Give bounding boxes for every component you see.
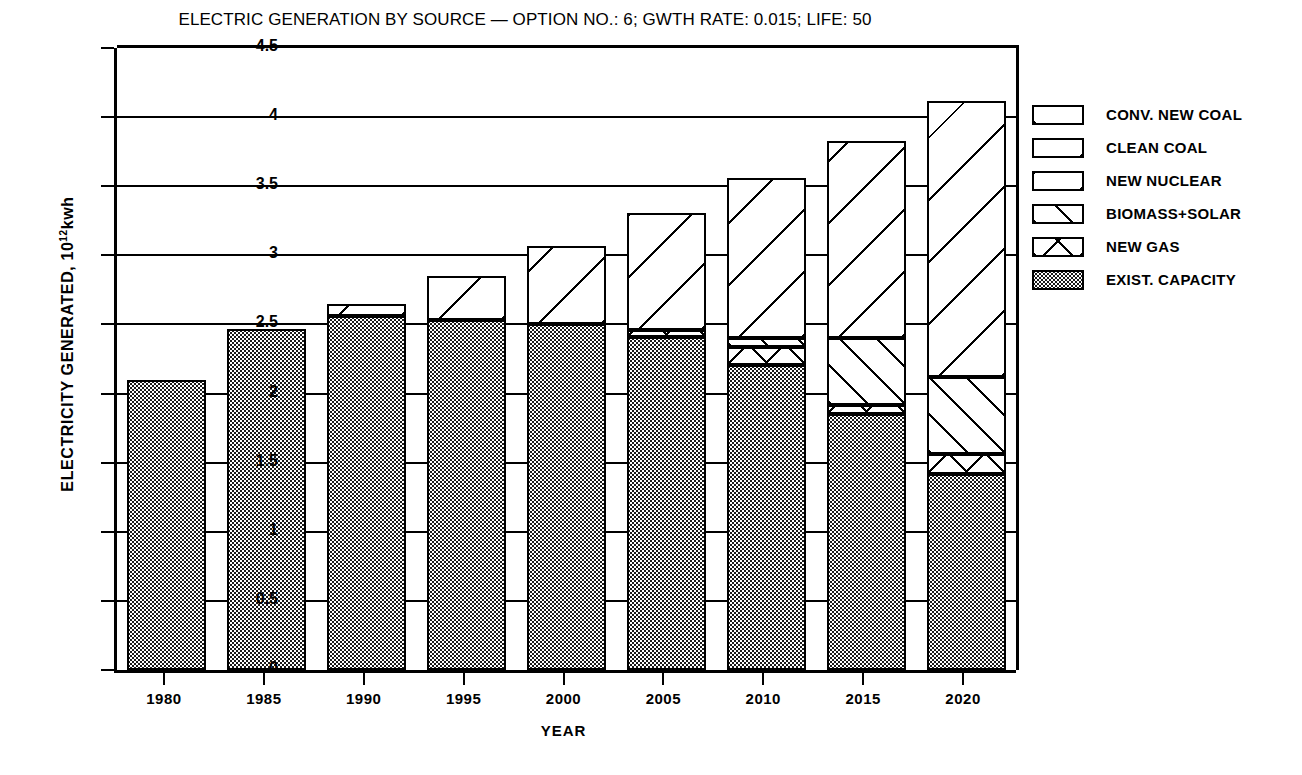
x-tick-mark <box>263 673 265 685</box>
bar-segment-new-nuclear[interactable] <box>827 141 906 339</box>
x-tick-label: 2010 <box>718 690 808 707</box>
legend-label: NEW NUCLEAR <box>1106 172 1222 189</box>
bar-2020[interactable] <box>927 101 1006 670</box>
bar-segment-new-nuclear[interactable] <box>327 304 406 316</box>
x-tick-mark <box>463 673 465 685</box>
y-tick-label: 2 <box>218 383 278 401</box>
x-tick-mark <box>662 673 664 685</box>
y-tick-label: 4.5 <box>218 37 278 55</box>
y-tick-label: 3 <box>218 244 278 262</box>
plot-frame-right <box>1016 45 1019 670</box>
bar-segment-new-gas[interactable] <box>627 330 706 337</box>
legend-swatch-icon <box>1032 138 1084 158</box>
bar-segment-biomass-solar[interactable] <box>727 338 806 346</box>
y-tick-label: 0.5 <box>218 590 278 608</box>
y-axis-label-exponent: 12 <box>58 229 69 241</box>
chart-page: ELECTRIC GENERATION BY SOURCE — OPTION N… <box>0 0 1302 775</box>
x-tick-label: 2020 <box>918 690 1008 707</box>
bar-segment-exist-capacity[interactable] <box>427 320 506 670</box>
bar-segment-new-nuclear[interactable] <box>427 276 506 320</box>
bar-segment-exist-capacity[interactable] <box>327 316 406 670</box>
legend-item-conv-new-coal[interactable]: CONV. NEW COAL <box>1032 98 1294 131</box>
x-tick-mark <box>762 673 764 685</box>
x-tick-label: 1985 <box>219 690 309 707</box>
y-tick-mark <box>101 185 114 187</box>
y-tick-label: 1.5 <box>218 452 278 470</box>
y-axis-label: ELECTRICITY GENERATED, 1012kwh <box>54 64 82 624</box>
bar-segment-exist-capacity[interactable] <box>527 324 606 670</box>
bar-segment-new-nuclear[interactable] <box>927 101 1006 377</box>
legend-swatch-icon <box>1032 270 1084 290</box>
legend-item-exist-capacity[interactable]: EXIST. CAPACITY <box>1032 263 1294 296</box>
bar-segment-new-gas[interactable] <box>727 347 806 365</box>
x-tick-mark <box>563 673 565 685</box>
y-tick-label: 1 <box>218 521 278 539</box>
x-tick-mark <box>962 673 964 685</box>
x-axis-label: YEAR <box>114 722 1013 739</box>
y-tick-mark <box>101 323 114 325</box>
x-tick-label: 1990 <box>319 690 409 707</box>
bar-segment-biomass-solar[interactable] <box>927 377 1006 454</box>
bar-segment-new-gas[interactable] <box>827 405 906 415</box>
y-axis-label-text: ELECTRICITY GENERATED, 10 <box>60 242 77 492</box>
legend: CONV. NEW COALCLEAN COALNEW NUCLEARBIOMA… <box>1032 98 1294 296</box>
bar-segment-new-nuclear[interactable] <box>727 178 806 338</box>
bar-segment-exist-capacity[interactable] <box>627 337 706 670</box>
y-tick-mark <box>101 531 114 533</box>
y-tick-label: 0 <box>218 659 278 677</box>
legend-item-new-nuclear[interactable]: NEW NUCLEAR <box>1032 164 1294 197</box>
bar-1995[interactable] <box>427 276 506 670</box>
bar-segment-exist-capacity[interactable] <box>227 329 306 670</box>
bar-2010[interactable] <box>727 178 806 670</box>
bar-segment-new-nuclear[interactable] <box>627 213 706 330</box>
x-tick-mark <box>163 673 165 685</box>
legend-swatch-icon <box>1032 204 1084 224</box>
bar-segment-new-nuclear[interactable] <box>527 246 606 325</box>
plot-area <box>114 48 1016 673</box>
legend-item-new-gas[interactable]: NEW GAS <box>1032 230 1294 263</box>
y-tick-mark <box>101 47 114 49</box>
x-tick-mark <box>363 673 365 685</box>
x-tick-label: 2015 <box>818 690 908 707</box>
bar-segment-exist-capacity[interactable] <box>127 380 206 670</box>
bar-1985[interactable] <box>227 329 306 670</box>
bar-2015[interactable] <box>827 141 906 670</box>
legend-label: EXIST. CAPACITY <box>1106 271 1236 288</box>
bar-2005[interactable] <box>627 213 706 671</box>
bar-2000[interactable] <box>527 246 606 670</box>
legend-item-biomass-solar[interactable]: BIOMASS+SOLAR <box>1032 197 1294 230</box>
chart-title: ELECTRIC GENERATION BY SOURCE — OPTION N… <box>0 10 1050 30</box>
y-tick-label: 2.5 <box>218 313 278 331</box>
y-tick-mark <box>101 254 114 256</box>
bar-segment-biomass-solar[interactable] <box>827 338 906 404</box>
y-tick-mark <box>101 600 114 602</box>
y-tick-label: 3.5 <box>218 175 278 193</box>
y-tick-mark <box>101 669 114 671</box>
x-tick-mark <box>862 673 864 685</box>
legend-swatch-icon <box>1032 105 1084 125</box>
x-tick-label: 1980 <box>119 690 209 707</box>
legend-label: NEW GAS <box>1106 238 1180 255</box>
bar-segment-exist-capacity[interactable] <box>927 474 1006 670</box>
y-tick-label: 4 <box>218 106 278 124</box>
legend-label: CONV. NEW COAL <box>1106 106 1242 123</box>
x-tick-label: 2005 <box>618 690 708 707</box>
legend-swatch-icon <box>1032 171 1084 191</box>
legend-item-clean-coal[interactable]: CLEAN COAL <box>1032 131 1294 164</box>
y-tick-mark <box>101 393 114 395</box>
bar-segment-exist-capacity[interactable] <box>827 414 906 670</box>
bar-segment-exist-capacity[interactable] <box>727 365 806 670</box>
x-tick-label: 1995 <box>419 690 509 707</box>
bar-segment-new-gas[interactable] <box>927 454 1006 473</box>
bar-1980[interactable] <box>127 380 206 670</box>
y-axis-label-unit: kwh <box>60 196 77 229</box>
x-tick-label: 2000 <box>519 690 609 707</box>
y-tick-mark <box>101 462 114 464</box>
legend-label: BIOMASS+SOLAR <box>1106 205 1241 222</box>
legend-swatch-icon <box>1032 237 1084 257</box>
legend-label: CLEAN COAL <box>1106 139 1207 156</box>
y-tick-mark <box>101 116 114 118</box>
bar-1990[interactable] <box>327 304 406 670</box>
